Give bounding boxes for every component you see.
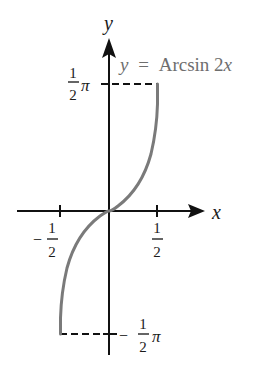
y-axis-label: y — [102, 12, 113, 35]
arcsin-graph: y x y = Arcsin 2x 1 2 π − 1 2 π − 1 2 1 … — [0, 0, 278, 372]
y-top-den: 2 — [69, 87, 77, 103]
x-neg-num: 1 — [48, 220, 56, 236]
y-top-tick-label: 1 2 π — [68, 65, 90, 103]
y-top-num: 1 — [69, 65, 77, 81]
y-bottom-tick-label: − 1 2 π — [119, 316, 161, 355]
y-bottom-pi: π — [152, 327, 161, 346]
y-bottom-sign: − — [119, 327, 128, 344]
y-bottom-den: 2 — [139, 339, 147, 355]
x-neg-tick-label: − 1 2 — [33, 220, 58, 260]
y-top-pi: π — [81, 76, 90, 95]
equation-var: x — [223, 54, 233, 75]
equation-eq: = — [138, 54, 149, 75]
x-neg-sign: − — [33, 231, 42, 248]
equation-label: y = Arcsin 2x — [118, 54, 233, 75]
x-pos-tick-label: 1 2 — [152, 220, 163, 260]
x-neg-den: 2 — [48, 244, 56, 260]
y-bottom-num: 1 — [139, 316, 147, 332]
equation-lhs: y — [118, 54, 129, 75]
x-pos-den: 2 — [153, 244, 161, 260]
x-axis-label: x — [211, 201, 221, 223]
x-pos-num: 1 — [153, 220, 161, 236]
equation-fn: Arcsin 2 — [159, 54, 224, 75]
